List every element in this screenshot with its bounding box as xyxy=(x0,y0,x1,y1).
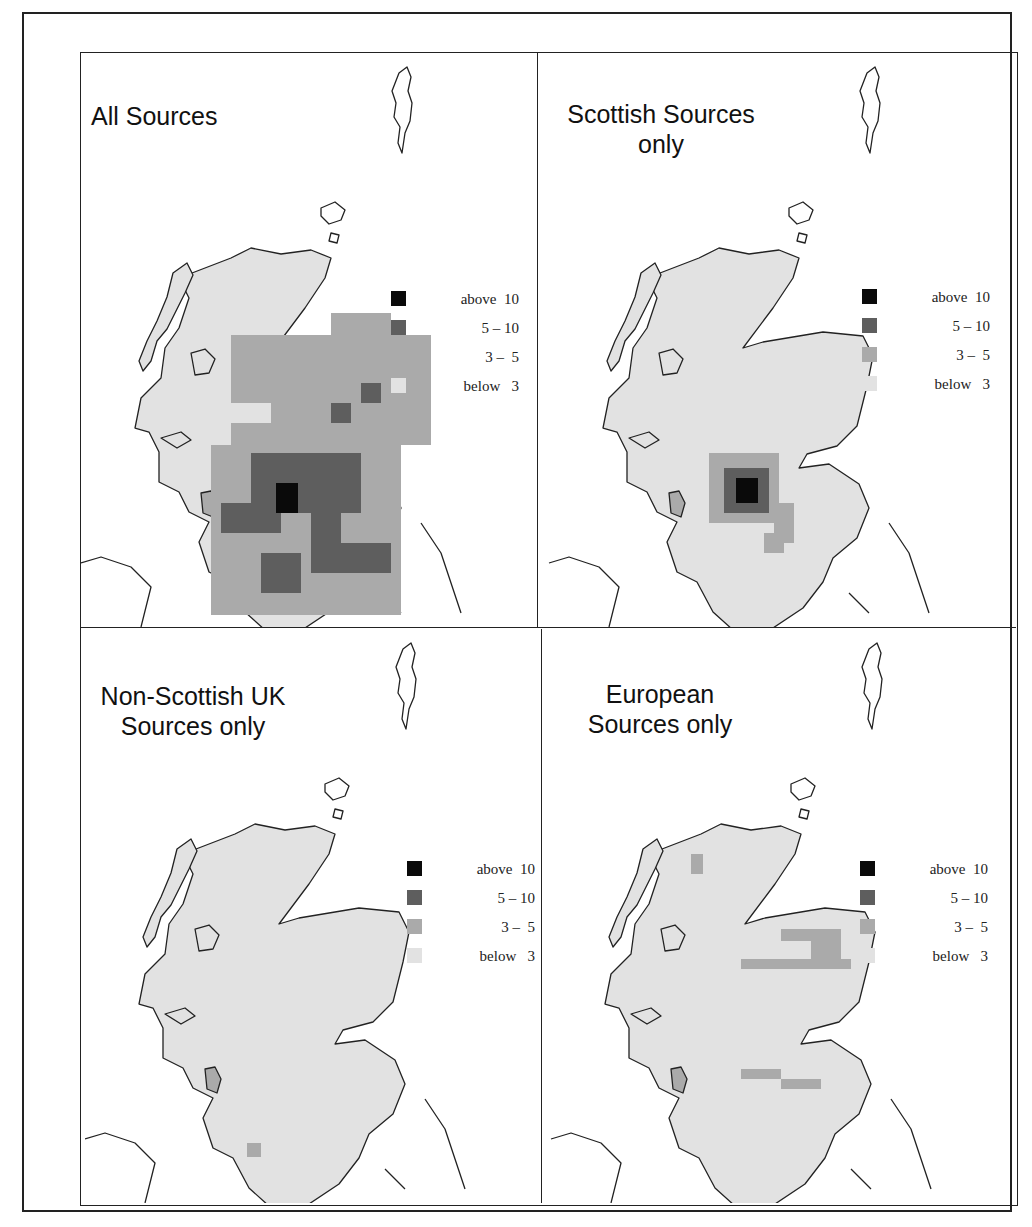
legend-swatch xyxy=(860,890,875,905)
panel-title: Scottish Sources only xyxy=(556,99,766,159)
legend-swatch xyxy=(407,948,422,963)
scotland-map xyxy=(81,53,537,627)
legend-swatch xyxy=(860,919,875,934)
figure-frame: All Sources above 10 5 – 10 3 – 5 below … xyxy=(22,12,1012,1212)
legend-swatch xyxy=(407,890,422,905)
legend-swatch xyxy=(862,347,877,362)
map-panel-non-scottish-uk-sources: Non-Scottish UK Sources only above 10 5 … xyxy=(85,629,542,1203)
map-panel-european-sources: European Sources only above 10 5 – 10 3 … xyxy=(542,629,1016,1203)
map-panel-scottish-sources: Scottish Sources only above 10 5 – 10 3 … xyxy=(538,53,1016,628)
panel-title: All Sources xyxy=(91,101,217,131)
legend-swatch xyxy=(862,289,877,304)
legend-swatch xyxy=(391,291,406,306)
legend-swatch xyxy=(407,861,422,876)
legend-swatch xyxy=(860,948,875,963)
map-panel-all-sources: All Sources above 10 5 – 10 3 – 5 below … xyxy=(81,53,538,628)
legend-swatch xyxy=(391,378,406,393)
legend-swatch xyxy=(391,320,406,335)
panel-title: Non-Scottish UK Sources only xyxy=(93,681,293,741)
legend-swatch xyxy=(391,349,406,364)
map-grid: All Sources above 10 5 – 10 3 – 5 below … xyxy=(80,52,1018,1206)
legend-swatch xyxy=(862,376,877,391)
legend-swatch xyxy=(407,919,422,934)
legend-swatch xyxy=(862,318,877,333)
legend-swatch xyxy=(860,861,875,876)
panel-title: European Sources only xyxy=(560,679,760,739)
